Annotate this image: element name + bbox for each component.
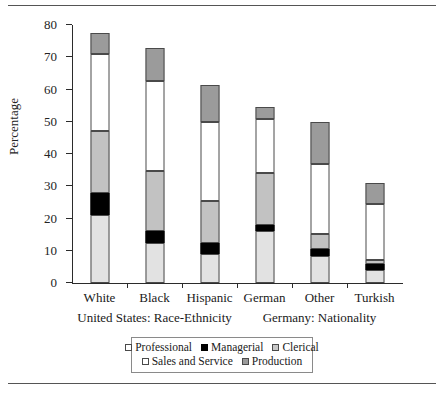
- y-tick: 50: [66, 121, 72, 122]
- bar-segment-professional: [255, 231, 274, 283]
- y-tick: 60: [66, 89, 72, 90]
- bar-segment-professional: [310, 256, 329, 283]
- bar-segment-professional: [200, 254, 219, 283]
- bar-segment-sales: [90, 54, 109, 131]
- y-tick-label: 80: [44, 18, 57, 31]
- bar-segment-sales: [200, 122, 219, 201]
- x-category-label-turkish: Turkish: [355, 290, 395, 306]
- y-tick: 20: [66, 218, 72, 219]
- bar-segment-production: [255, 107, 274, 118]
- y-tick: 70: [66, 56, 72, 57]
- x-category-label-other: Other: [305, 290, 335, 306]
- bar-segment-clerical: [310, 234, 329, 249]
- bar-segment-sales: [255, 119, 274, 174]
- bar-white: [90, 33, 109, 283]
- bar-segment-production: [310, 122, 329, 164]
- bar-segment-clerical: [255, 173, 274, 225]
- bar-hispanic: [200, 85, 219, 283]
- x-tick: [347, 283, 348, 288]
- legend-swatch-managerial-icon: [201, 344, 208, 351]
- bar-german: [255, 107, 274, 283]
- x-tick: [237, 283, 238, 288]
- bar-segment-production: [200, 85, 219, 122]
- legend-label: Production: [252, 355, 302, 369]
- y-axis-title: Percentage: [6, 98, 22, 155]
- x-category-label-white: White: [84, 290, 116, 306]
- legend: ProfessionalManagerialClerical Sales and…: [131, 337, 313, 373]
- bar-segment-professional: [90, 215, 109, 283]
- bar-segment-sales: [365, 204, 384, 260]
- legend-swatch-clerical-icon: [272, 344, 279, 351]
- legend-item-professional[interactable]: Professional: [125, 341, 192, 355]
- bar-segment-production: [145, 48, 164, 82]
- legend-label: Managerial: [211, 341, 263, 355]
- bar-segment-professional: [365, 270, 384, 283]
- y-tick: 40: [66, 153, 72, 154]
- bottom-rule: [8, 383, 436, 384]
- legend-label: Professional: [135, 341, 192, 355]
- bar-segment-sales: [310, 164, 329, 234]
- legend-swatch-production-icon: [242, 358, 249, 365]
- bar-segment-clerical: [145, 171, 164, 232]
- plot-area: 01020304050607080: [72, 25, 402, 283]
- legend-row-1: ProfessionalManagerialClerical: [136, 341, 308, 355]
- x-category-label-hispanic: Hispanic: [186, 290, 232, 306]
- bar-segment-sales: [145, 81, 164, 170]
- legend-item-sales[interactable]: Sales and Service: [142, 355, 233, 369]
- bar-segment-managerial: [90, 193, 109, 216]
- x-tick: [127, 283, 128, 288]
- bar-segment-professional: [145, 243, 164, 283]
- bar-segment-clerical: [90, 131, 109, 192]
- bar-segment-managerial: [365, 264, 384, 270]
- group-label-2: Germany: Nationality: [263, 310, 377, 326]
- y-tick-label: 60: [44, 82, 57, 95]
- bar-segment-managerial: [255, 225, 274, 231]
- y-tick-label: 70: [44, 50, 57, 63]
- bar-segment-clerical: [200, 201, 219, 243]
- legend-swatch-professional-icon: [125, 344, 132, 351]
- x-tick: [292, 283, 293, 288]
- bar-segment-production: [90, 33, 109, 54]
- y-tick: 80: [66, 24, 72, 25]
- bar-segment-clerical: [365, 260, 384, 263]
- x-tick: [182, 283, 183, 288]
- legend-item-clerical[interactable]: Clerical: [272, 341, 318, 355]
- group-label-1: United States: Race-Ethnicity: [77, 310, 232, 326]
- legend-label: Sales and Service: [152, 355, 233, 369]
- y-tick-label: 50: [44, 114, 57, 127]
- legend-item-managerial[interactable]: Managerial: [201, 341, 263, 355]
- y-tick-label: 10: [44, 243, 57, 256]
- top-rule: [8, 5, 436, 6]
- bar-segment-managerial: [310, 249, 329, 255]
- legend-item-production[interactable]: Production: [242, 355, 302, 369]
- bar-segment-managerial: [200, 243, 219, 254]
- y-tick: 10: [66, 250, 72, 251]
- bar-segment-production: [365, 183, 384, 204]
- bar-turkish: [365, 183, 384, 283]
- y-tick: 30: [66, 185, 72, 186]
- y-tick-label: 40: [44, 147, 57, 160]
- legend-label: Clerical: [282, 341, 318, 355]
- y-tick: 0: [66, 282, 72, 283]
- y-tick-label: 30: [44, 179, 57, 192]
- legend-swatch-sales-icon: [142, 358, 149, 365]
- x-category-label-black: Black: [139, 290, 169, 306]
- bar-segment-managerial: [145, 231, 164, 242]
- figure: Percentage 01020304050607080 WhiteBlackH…: [0, 0, 444, 394]
- bar-black: [145, 48, 164, 283]
- y-tick-label: 0: [51, 276, 58, 289]
- legend-row-2: Sales and ServiceProduction: [136, 355, 308, 369]
- y-tick-label: 20: [44, 211, 57, 224]
- x-category-label-german: German: [244, 290, 286, 306]
- bar-other: [310, 122, 329, 283]
